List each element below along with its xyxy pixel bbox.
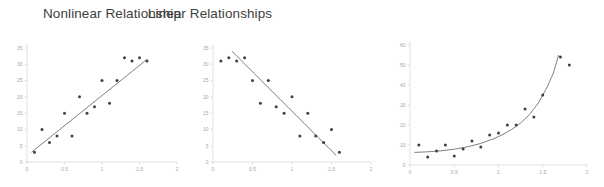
y-tick-label: 15 (203, 110, 209, 116)
y-tick-label: 10 (400, 142, 406, 148)
data-point (559, 56, 562, 59)
data-point (227, 56, 230, 59)
y-tick-label: 10 (203, 126, 209, 132)
data-point (306, 112, 309, 115)
trend-line (32, 59, 148, 152)
x-tick-label: 1 (291, 166, 294, 172)
data-point (86, 112, 89, 115)
scatter-plot-nonlinear: 010203040506000.511.52 (380, 0, 604, 187)
trend-curve (414, 55, 558, 152)
chart-panel-negative-linear: 0510152025303500.511.52 (186, 0, 380, 187)
chart-panel-nonlinear: 010203040506000.511.52 (380, 0, 604, 187)
data-point (108, 102, 111, 105)
chart-panel-positive-linear: 0510152025303500.511.52 (0, 0, 186, 187)
data-point (33, 151, 36, 154)
x-tick-label: 2 (586, 169, 589, 175)
y-tick-label: 30 (203, 61, 209, 67)
data-point (138, 56, 141, 59)
data-point (259, 102, 262, 105)
data-point (116, 79, 119, 82)
figure-root: 0510152025303500.511.52 0510152025303500… (0, 0, 604, 187)
data-point (322, 141, 325, 144)
x-tick-label: 0.5 (451, 169, 458, 175)
scatter-plot-negative-linear: 0510152025303500.511.52 (186, 0, 380, 187)
data-point (426, 156, 429, 159)
data-point (444, 144, 447, 147)
y-tick-label: 35 (203, 45, 209, 51)
y-tick-label: 20 (17, 94, 23, 100)
data-point (251, 79, 254, 82)
data-point (515, 124, 518, 127)
y-tick-label: 40 (400, 82, 406, 88)
y-tick-label: 0 (20, 159, 23, 165)
data-point (41, 128, 44, 131)
data-point (524, 108, 527, 111)
y-tick-label: 60 (400, 42, 406, 48)
data-point (48, 141, 51, 144)
trend-line (232, 51, 336, 155)
data-point (435, 150, 438, 153)
data-point (243, 56, 246, 59)
data-point (219, 60, 222, 63)
data-point (291, 95, 294, 98)
x-tick-label: 1 (101, 166, 104, 172)
x-tick-label: 2 (370, 166, 373, 172)
y-tick-label: 15 (17, 110, 23, 116)
y-tick-label: 25 (17, 77, 23, 83)
y-tick-label: 50 (400, 62, 406, 68)
scatter-plot-positive-linear: 0510152025303500.511.52 (0, 0, 186, 187)
data-point (267, 79, 270, 82)
data-point (56, 134, 59, 137)
data-point (71, 134, 74, 137)
y-tick-label: 30 (17, 61, 23, 67)
data-point (314, 134, 317, 137)
y-tick-label: 35 (17, 45, 23, 51)
data-point (506, 124, 509, 127)
data-point (283, 112, 286, 115)
y-tick-label: 5 (20, 143, 23, 149)
y-tick-label: 20 (203, 94, 209, 100)
data-point (101, 79, 104, 82)
data-point (123, 56, 126, 59)
y-tick-label: 10 (17, 126, 23, 132)
data-point (78, 95, 81, 98)
data-point (488, 134, 491, 137)
y-tick-label: 30 (400, 102, 406, 108)
data-point (417, 144, 420, 147)
x-tick-label: 1.5 (136, 166, 143, 172)
data-point (541, 94, 544, 97)
data-point (275, 105, 278, 108)
x-tick-label: 1.5 (328, 166, 335, 172)
data-point (532, 116, 535, 119)
x-tick-label: 1 (497, 169, 500, 175)
y-tick-label: 5 (206, 143, 209, 149)
x-tick-label: 0.5 (249, 166, 256, 172)
y-tick-label: 25 (203, 77, 209, 83)
data-point (146, 60, 149, 63)
data-point (298, 134, 301, 137)
x-tick-label: 0.5 (61, 166, 68, 172)
data-point (453, 155, 456, 158)
data-point (462, 148, 465, 151)
x-tick-label: 2 (176, 166, 179, 172)
data-point (131, 60, 134, 63)
x-tick-label: 0 (212, 166, 215, 172)
data-point (235, 60, 238, 63)
data-point (330, 128, 333, 131)
chart-title-nonlinear: Nonlinear Relationship (0, 6, 224, 21)
x-tick-label: 0 (26, 166, 29, 172)
data-point (93, 105, 96, 108)
data-point (338, 151, 341, 154)
x-tick-label: 0 (409, 169, 412, 175)
y-tick-label: 0 (206, 159, 209, 165)
data-point (497, 132, 500, 135)
y-tick-label: 0 (403, 162, 406, 168)
data-point (63, 112, 66, 115)
data-point (568, 64, 571, 67)
x-tick-label: 1.5 (539, 169, 546, 175)
data-point (479, 146, 482, 149)
data-point (470, 140, 473, 143)
y-tick-label: 20 (400, 122, 406, 128)
